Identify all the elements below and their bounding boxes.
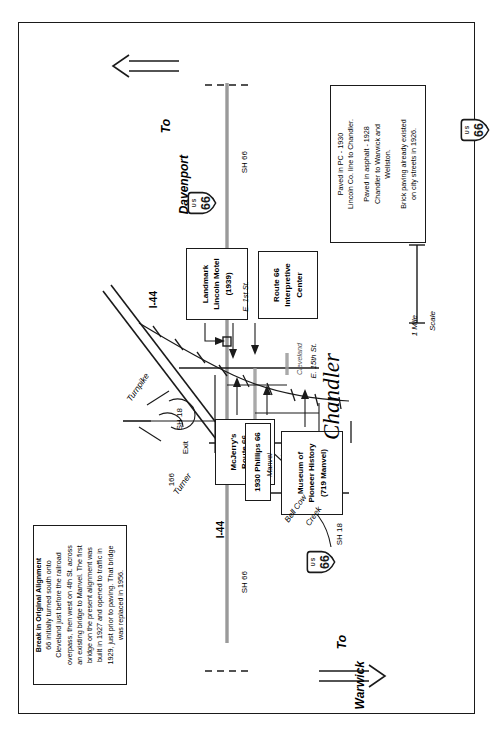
- svg-text:U S: U S: [464, 125, 470, 134]
- svg-text:66: 66: [318, 555, 332, 569]
- road-label-exit: Exit: [181, 441, 190, 454]
- to-warwick-arrow: [319, 665, 385, 687]
- road-label-i-44-north: I-44: [148, 291, 159, 308]
- to-davenport-label: To: [159, 119, 173, 133]
- street-label-cleveland: Cleveland: [295, 343, 304, 375]
- site-museum-of-pioneer-history: Museum of Pioneer History (719 Manvel): [281, 431, 343, 515]
- street-label-e-15th-st: E. 15th St.: [309, 343, 318, 378]
- place-name-chandler: Chandler: [319, 353, 345, 440]
- road-label-i-44-south: I-44: [215, 521, 226, 538]
- svg-text:66: 66: [472, 123, 486, 137]
- to-davenport-arrow: [113, 55, 179, 77]
- road-label-sh-18-north: SH 18: [175, 408, 184, 430]
- svg-text:66: 66: [199, 196, 213, 210]
- us-66-shield-south: U S 66: [308, 547, 334, 577]
- street-label-e-1st-st: E. 1st St.: [241, 281, 250, 312]
- road-label-sh-66-north: SH 66: [240, 151, 249, 173]
- road-label-sh-18-south: SH 18: [335, 523, 344, 545]
- road-label-exit-number: 166: [167, 473, 176, 486]
- note-break-in-alignment: Break in Original Alignment 66 initially…: [33, 525, 127, 685]
- svg-text:U S: U S: [191, 198, 197, 207]
- us-66-shield-north: U S 66: [189, 188, 215, 218]
- road-label-sh-66-south: SH 66: [240, 571, 249, 593]
- note-paving-history: Paved in PC - 1930 Lincoln Co. line to C…: [330, 85, 426, 243]
- svg-text:U S: U S: [310, 557, 316, 566]
- scale-bar-graphic: [409, 245, 425, 323]
- warwick-label: Warwick: [353, 661, 367, 709]
- to-warwick-label: To: [335, 635, 349, 649]
- street-label-manvel: Manvel: [265, 453, 274, 477]
- map-sheet: Break in Original Alignment 66 initially…: [18, 22, 475, 714]
- scale-caption-label: Scale: [428, 311, 437, 331]
- site-route-66-interpretive-center: Route 66 Interpretive Center: [258, 251, 318, 319]
- site-landmark-lincoln-motel: Landmark Lincoln Motel (1939): [186, 248, 248, 320]
- us-66-shield-mid: U S 66: [462, 115, 488, 145]
- note-title: Break in Original Alignment: [34, 545, 44, 665]
- scale-distance-label: 1 Mile: [410, 315, 419, 336]
- map-page: Break in Original Alignment 66 initially…: [0, 0, 493, 755]
